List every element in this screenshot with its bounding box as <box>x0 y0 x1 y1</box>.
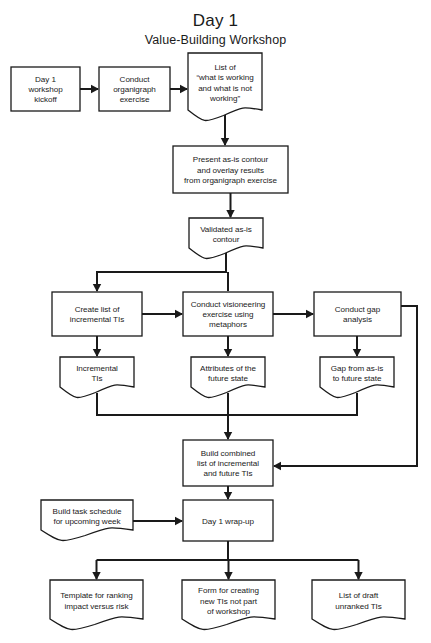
node-label-line: Conduct visioneering <box>191 300 266 309</box>
flowchart-svg: Day 1 Value-Building Workshop Day 1works… <box>0 0 431 643</box>
node-label-line: and future TIs <box>203 469 252 478</box>
node-label-line: TIs <box>91 374 102 383</box>
arrowhead <box>226 210 234 218</box>
node-label-line: of workshop <box>207 607 251 616</box>
node-label-line: Template for ranking <box>60 591 132 600</box>
node-label-line: Attributes of the <box>200 364 256 373</box>
arrowhead <box>93 284 101 292</box>
node-label-line: Create list of <box>75 305 121 314</box>
arrowhead <box>175 310 183 318</box>
node-label-line: “what is working <box>196 73 253 82</box>
node-label-line: exercise <box>120 95 150 104</box>
flow-node-n6: Create list ofincremental TIs <box>52 292 142 336</box>
node-label-line: Conduct <box>120 75 151 84</box>
node-label-line: analysis <box>343 315 372 324</box>
node-label-line: Conduct gap <box>335 305 381 314</box>
flow-node-n7: Conduct visioneeringexercise usingmetaph… <box>183 292 273 336</box>
flow-node-n3: List of“what is workingand what is notwo… <box>188 53 262 121</box>
arrowhead <box>221 138 229 146</box>
node-label-line: contour <box>213 235 240 244</box>
node-label-line: Incremental <box>76 364 118 373</box>
node-label-line: List of <box>214 63 236 72</box>
flow-node-n14: Day 1 wrap-up <box>183 500 273 541</box>
flow-node-n16: Form for creatingnew TIs not partof work… <box>182 580 275 630</box>
node-label-line: from organigraph exercise <box>184 176 277 185</box>
nodes-group: Day 1workshopkickoffConductorganigraphex… <box>11 53 405 630</box>
node-label-line: and overlay results <box>197 166 264 175</box>
node-label-line: Gap from as-is <box>331 364 383 373</box>
arrowhead <box>91 85 99 93</box>
arrowhead <box>224 572 232 580</box>
arrowhead <box>354 572 362 580</box>
node-label-line: impact versus risk <box>65 602 130 611</box>
page-title: Day 1 <box>193 11 238 30</box>
arrowhead <box>180 85 188 93</box>
flow-node-n17: List of draftunranked TIs <box>312 580 405 630</box>
node-label-line: new TIs not part <box>200 597 258 606</box>
arrowhead <box>224 492 232 500</box>
node-label-line: future state <box>208 374 248 383</box>
node-label-line: Form for creating <box>198 586 259 595</box>
node-label-line: Validated as-is <box>200 225 252 234</box>
flow-node-n12: Build combinedlist of incrementaland fut… <box>183 440 273 486</box>
flow-node-n10: Attributes of thefuture state <box>191 357 265 398</box>
node-label-line: organigraph <box>113 85 156 94</box>
process-shape <box>52 292 142 336</box>
arrowhead <box>353 349 361 357</box>
node-label-line: working” <box>209 94 241 103</box>
node-label-line: incremental TIs <box>70 315 124 324</box>
node-label-line: Day 1 <box>35 75 56 84</box>
arrowhead <box>92 572 100 580</box>
flow-node-n15: Template for rankingimpact versus risk <box>50 580 143 630</box>
flow-node-n11: Gap from as-isto future state <box>320 357 394 398</box>
arrowhead <box>175 517 183 525</box>
flow-node-n4: Present as-is contourand overlay results… <box>173 146 288 193</box>
flow-node-n9: IncrementalTIs <box>60 357 134 398</box>
node-label-line: Build combined <box>201 449 256 458</box>
node-label-line: Build task schedule <box>53 507 122 516</box>
node-label-line: Day 1 wrap-up <box>202 517 255 526</box>
process-shape <box>314 292 401 336</box>
arrowhead <box>93 349 101 357</box>
flow-node-n8: Conduct gapanalysis <box>314 292 401 336</box>
node-label-line: workshop <box>27 85 63 94</box>
arrowhead <box>224 349 232 357</box>
arrowhead <box>224 432 232 440</box>
arrowhead <box>273 462 281 470</box>
node-label-line: exercise using <box>202 310 253 319</box>
node-label-line: and what is not <box>198 84 252 93</box>
node-label-line: List of draft <box>339 591 379 600</box>
flow-node-n5: Validated as-iscontour <box>189 218 263 259</box>
node-label-line: kickoff <box>34 95 57 104</box>
arrowhead <box>306 310 314 318</box>
node-label-line: to future state <box>333 374 382 383</box>
flow-node-n13: Build task schedulefor upcoming week <box>41 500 133 541</box>
page-subtitle: Value-Building Workshop <box>145 33 287 47</box>
flowchart-canvas: Day 1 Value-Building Workshop Day 1works… <box>0 0 431 643</box>
flow-node-n1: Day 1workshopkickoff <box>11 67 80 111</box>
node-label-line: Present as-is contour <box>193 155 269 164</box>
node-label-line: list of incremental <box>197 459 259 468</box>
node-label-line: unranked TIs <box>335 602 382 611</box>
node-label-line: for upcoming week <box>53 517 121 526</box>
node-label-line: metaphors <box>209 320 247 329</box>
flow-node-n2: Conductorganigraphexercise <box>99 67 170 111</box>
